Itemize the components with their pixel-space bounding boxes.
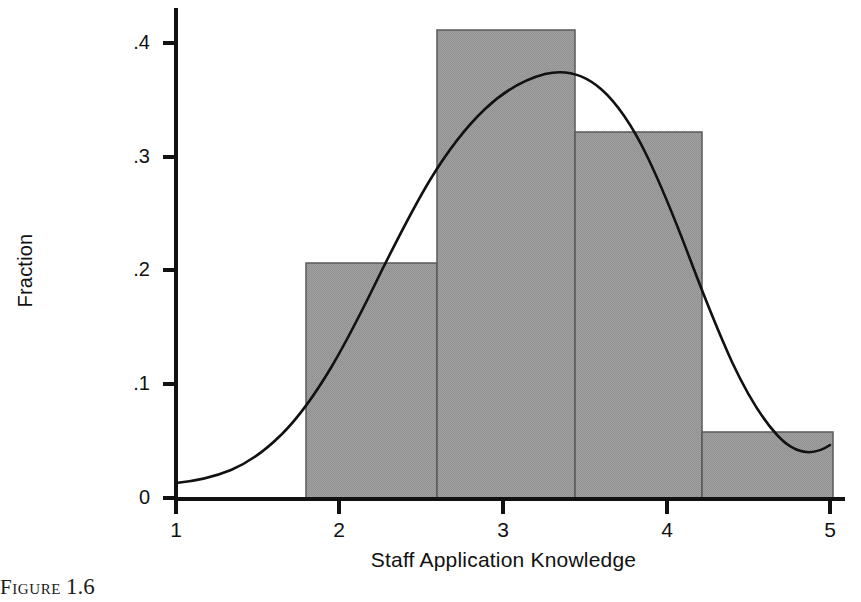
figure-caption-number: 1.6 [66,574,95,599]
figure-caption: Figure1.6 [0,574,95,600]
y-tick-label: .3 [104,145,150,168]
y-tick-label: .2 [104,258,150,281]
x-axis-title: Staff Application Knowledge [176,548,831,572]
x-tick-label: 2 [319,518,359,542]
x-tick-label: 1 [156,518,196,542]
figure-container: .4 .3 .2 .1 0 1 2 3 4 5 Fraction Staff A… [0,0,861,602]
histogram-bar [437,30,575,498]
histogram-bar [575,132,702,498]
histogram-bar [702,432,833,498]
x-axis-ticks [176,499,830,514]
x-tick-label: 5 [810,518,850,542]
y-tick-label: 0 [104,486,150,509]
histogram-bar [306,263,437,498]
figure-caption-word: Figure [0,575,61,599]
x-tick-label: 4 [647,518,687,542]
y-tick-label: .1 [104,372,150,395]
y-tick-label: .4 [104,31,150,54]
x-tick-label: 3 [483,518,523,542]
histogram-chart: .4 .3 .2 .1 0 1 2 3 4 5 Fraction Staff A… [0,0,861,540]
